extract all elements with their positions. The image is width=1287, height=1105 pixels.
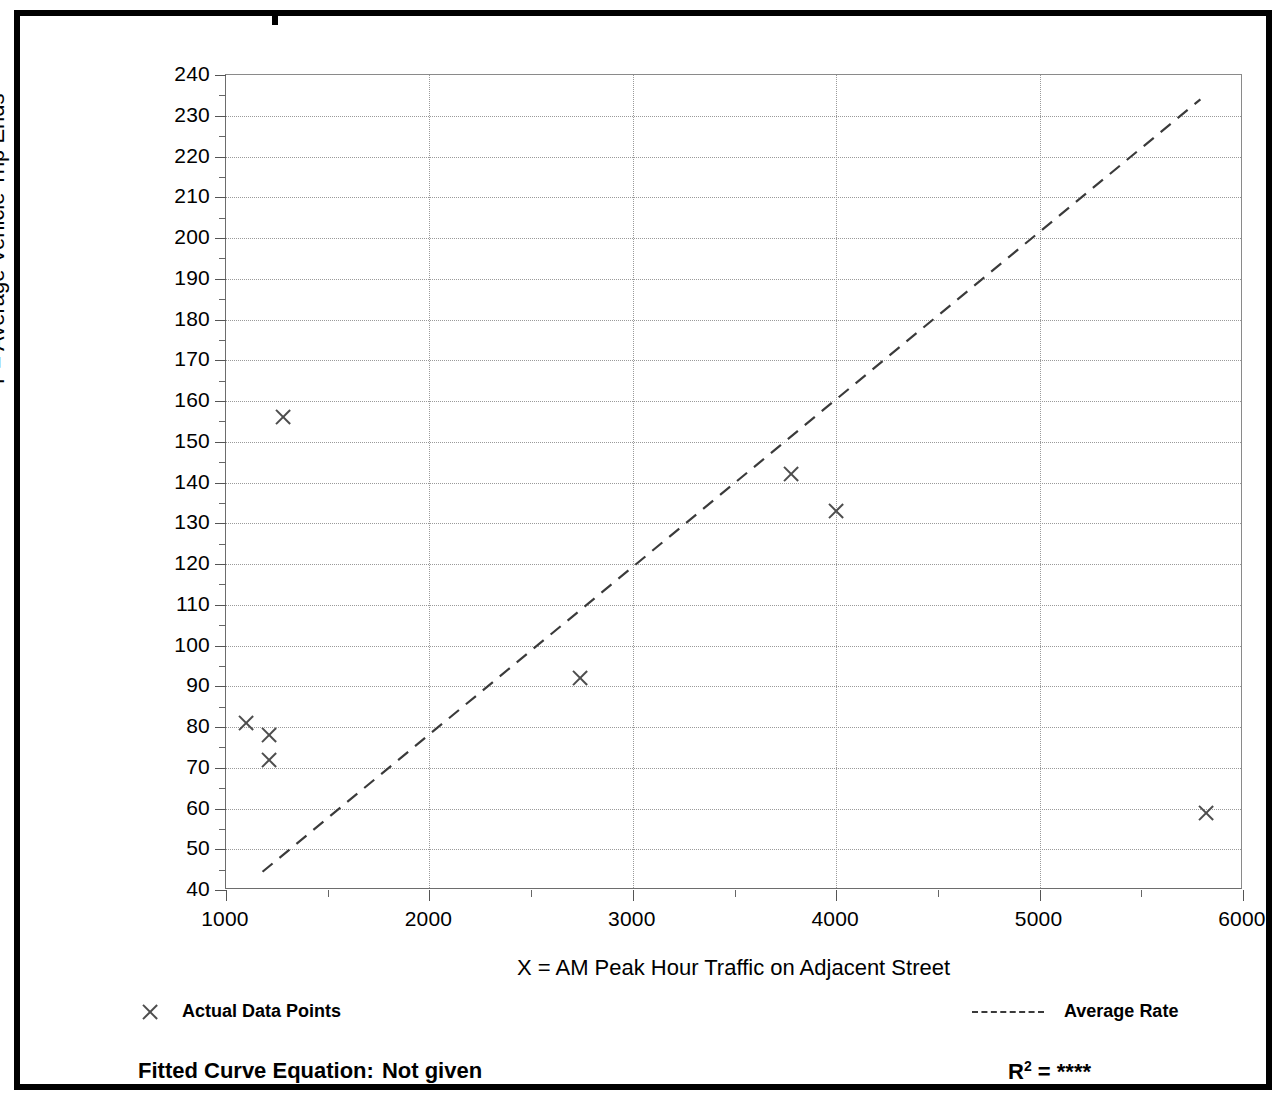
y-axis-tick (215, 442, 226, 443)
data-point-marker (1196, 803, 1216, 823)
y-axis-minor-tick (219, 503, 226, 504)
y-axis-minor-tick (219, 666, 226, 667)
y-axis-tick-label: 50 (186, 836, 210, 860)
y-axis-tick (215, 157, 226, 158)
y-axis-tick (215, 483, 226, 484)
y-axis-tick-label: 120 (174, 551, 210, 575)
y-axis-minor-tick (219, 340, 226, 341)
dashed-line-icon (972, 1011, 1044, 1013)
x-axis-tick (1040, 890, 1041, 901)
y-axis-tick (215, 686, 226, 687)
data-point-marker (570, 668, 590, 688)
y-axis-tick (215, 401, 226, 402)
data-point-marker (236, 713, 256, 733)
y-axis-tick (215, 849, 226, 850)
y-axis-tick (215, 890, 226, 891)
y-axis-minor-tick (219, 788, 226, 789)
y-axis-tick-label: 220 (174, 144, 210, 168)
x-axis-tick-label: 2000 (405, 907, 453, 931)
x-axis-tick-label: 3000 (608, 907, 656, 931)
y-axis-tick (215, 727, 226, 728)
x-axis-tick-label: 5000 (1015, 907, 1063, 931)
fitted-curve-equation: Fitted Curve Equation:Not given (138, 1058, 482, 1084)
r-label: R (1008, 1059, 1024, 1084)
y-axis-tick-label: 70 (186, 755, 210, 779)
x-marker-icon (140, 1002, 160, 1022)
y-axis-tick-label: 40 (186, 877, 210, 901)
y-axis-minor-tick (219, 136, 226, 137)
r-exponent: 2 (1024, 1058, 1032, 1074)
data-point-marker (273, 407, 293, 427)
y-axis-tick (215, 523, 226, 524)
y-axis-minor-tick (219, 544, 226, 545)
y-axis-minor-tick (219, 381, 226, 382)
x-axis-minor-tick (328, 890, 329, 897)
average-rate-trendline (226, 75, 1241, 888)
x-axis-tick-label: 6000 (1218, 907, 1266, 931)
x-axis-minor-tick (735, 890, 736, 897)
data-point-marker (781, 464, 801, 484)
y-axis-tick-label: 80 (186, 714, 210, 738)
legend-actual-data-points: Actual Data Points (140, 1001, 341, 1022)
x-axis-tick-labels: 100020003000400050006000 (225, 907, 1242, 937)
y-axis-tick-labels: 4050607080901001101201301401501601701801… (130, 74, 210, 889)
y-axis-tick-label: 180 (174, 307, 210, 331)
x-axis-title: X = AM Peak Hour Traffic on Adjacent Str… (225, 955, 1242, 981)
y-axis-minor-tick (219, 462, 226, 463)
x-axis-tick (429, 890, 430, 901)
r-squared-value: R2 = **** (1008, 1058, 1091, 1085)
chart-outer-frame: 4050607080901001101201301401501601701801… (14, 10, 1272, 1090)
r-value: **** (1057, 1059, 1091, 1084)
y-axis-tick (215, 197, 226, 198)
y-axis-tick-label: 150 (174, 429, 210, 453)
page-top-tick-mark (272, 16, 278, 25)
x-axis-tick-label: 1000 (201, 907, 249, 931)
x-axis-minor-tick (1141, 890, 1142, 897)
x-axis-tick (836, 890, 837, 901)
equation-label: Fitted Curve Equation: (138, 1058, 374, 1083)
y-axis-tick (215, 564, 226, 565)
y-axis-tick-label: 190 (174, 266, 210, 290)
y-axis-minor-tick (219, 258, 226, 259)
x-axis-minor-tick (938, 890, 939, 897)
x-axis-tick-label: 4000 (811, 907, 859, 931)
y-axis-minor-tick (219, 95, 226, 96)
y-axis-minor-tick (219, 870, 226, 871)
data-point-marker (826, 501, 846, 521)
y-axis-minor-tick (219, 421, 226, 422)
y-axis-minor-tick (219, 829, 226, 830)
y-axis-tick-label: 200 (174, 225, 210, 249)
plot-area (225, 74, 1242, 889)
y-axis-minor-tick (219, 747, 226, 748)
y-axis-tick-label: 230 (174, 103, 210, 127)
y-axis-tick-label: 110 (176, 592, 210, 616)
y-axis-tick (215, 605, 226, 606)
y-axis-tick (215, 238, 226, 239)
y-axis-tick (215, 809, 226, 810)
y-axis-tick (215, 116, 226, 117)
y-axis-tick (215, 768, 226, 769)
y-axis-tick-label: 130 (174, 510, 210, 534)
y-axis-minor-tick (219, 177, 226, 178)
y-axis-title: T = Average Vehicle Trip Ends (0, 93, 10, 388)
x-axis-minor-tick (531, 890, 532, 897)
y-axis-tick (215, 360, 226, 361)
y-axis-tick-label: 170 (174, 347, 210, 371)
y-axis-tick (215, 75, 226, 76)
y-axis-tick-label: 90 (186, 673, 210, 697)
x-axis-tick (1243, 890, 1244, 901)
y-axis-minor-tick (219, 584, 226, 585)
y-axis-minor-tick (219, 218, 226, 219)
data-point-marker (259, 725, 279, 745)
y-axis-tick-label: 60 (186, 796, 210, 820)
legend-label-average-rate: Average Rate (1064, 1001, 1178, 1022)
y-axis-minor-tick (219, 625, 226, 626)
y-axis-tick-label: 240 (174, 62, 210, 86)
y-axis-tick-label: 140 (174, 470, 210, 494)
r-equals: = (1038, 1059, 1051, 1084)
data-point-marker (259, 750, 279, 770)
x-axis-tick (226, 890, 227, 901)
legend-label-data-points: Actual Data Points (182, 1001, 341, 1022)
y-axis-tick-label: 100 (174, 633, 210, 657)
y-axis-tick (215, 320, 226, 321)
